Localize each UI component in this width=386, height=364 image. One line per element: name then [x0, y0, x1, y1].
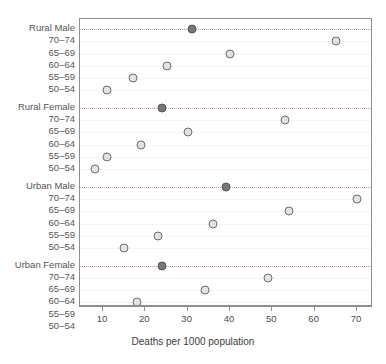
age-label-50-54: 50–54: [0, 242, 75, 252]
age-label-50-54: 50–54: [0, 321, 75, 331]
x-axis-line: [79, 306, 372, 307]
age-label-55-59: 55–59: [0, 151, 75, 161]
row-guide-line: [80, 211, 371, 212]
age-label-70-74: 70–74: [0, 114, 75, 124]
group-total-marker: [158, 103, 167, 112]
group-separator-line: [80, 266, 371, 267]
data-point: [137, 140, 146, 149]
x-tick-label: 10: [97, 313, 108, 324]
x-tick: [187, 306, 188, 311]
x-tick-label: 20: [139, 313, 150, 324]
age-label-65-69: 65–69: [0, 284, 75, 294]
age-label-65-69: 65–69: [0, 205, 75, 215]
data-point: [331, 37, 340, 46]
x-tick: [314, 306, 315, 311]
x-tick: [356, 306, 357, 311]
row-guide-line: [80, 41, 371, 42]
data-point: [353, 195, 362, 204]
age-label-70-74: 70–74: [0, 272, 75, 282]
age-label-60-64: 60–64: [0, 218, 75, 228]
x-tick-label: 30: [181, 313, 192, 324]
row-guide-line: [80, 78, 371, 79]
row-guide-line: [80, 66, 371, 67]
data-point: [162, 61, 171, 70]
data-point: [90, 165, 99, 174]
group-separator-line: [80, 108, 371, 109]
x-tick: [271, 306, 272, 311]
row-guide-line: [80, 132, 371, 133]
plot-area: [79, 18, 372, 306]
data-point: [103, 152, 112, 161]
age-label-65-69: 65–69: [0, 48, 75, 58]
row-guide-line: [80, 145, 371, 146]
data-point: [200, 286, 209, 295]
row-guide-line: [80, 157, 371, 158]
row-guide-line: [80, 236, 371, 237]
data-point: [103, 86, 112, 95]
age-label-55-59: 55–59: [0, 72, 75, 82]
age-label-70-74: 70–74: [0, 35, 75, 45]
x-tick-label: 50: [266, 313, 277, 324]
row-guide-line: [80, 224, 371, 225]
group-separator-line: [80, 29, 371, 30]
x-axis-title: Deaths per 1000 population: [0, 336, 386, 347]
data-point: [281, 116, 290, 125]
x-tick: [144, 306, 145, 311]
group-total-marker: [158, 261, 167, 270]
group-label-rural-female: Rural Female: [0, 102, 75, 112]
x-tick: [102, 306, 103, 311]
x-tick-label: 40: [224, 313, 235, 324]
age-label-55-59: 55–59: [0, 230, 75, 240]
data-point: [128, 74, 137, 83]
row-guide-line: [80, 120, 371, 121]
age-label-70-74: 70–74: [0, 193, 75, 203]
dot-plot-figure: Rural Male70–7465–6960–6455–5950–54Rural…: [0, 0, 386, 364]
age-label-50-54: 50–54: [0, 163, 75, 173]
age-label-65-69: 65–69: [0, 126, 75, 136]
group-total-marker: [187, 25, 196, 34]
age-label-55-59: 55–59: [0, 309, 75, 319]
age-label-50-54: 50–54: [0, 84, 75, 94]
group-total-marker: [221, 182, 230, 191]
group-label-rural-male: Rural Male: [0, 23, 75, 33]
age-label-60-64: 60–64: [0, 139, 75, 149]
data-point: [264, 273, 273, 282]
data-point: [285, 207, 294, 216]
group-label-urban-female: Urban Female: [0, 260, 75, 270]
age-label-60-64: 60–64: [0, 60, 75, 70]
data-point: [209, 219, 218, 228]
data-point: [226, 49, 235, 58]
data-point: [132, 298, 141, 306]
row-guide-line: [80, 169, 371, 170]
x-tick: [229, 306, 230, 311]
row-guide-line: [80, 199, 371, 200]
x-tick-label: 70: [351, 313, 362, 324]
row-guide-line: [80, 90, 371, 91]
data-point: [120, 244, 129, 253]
group-label-urban-male: Urban Male: [0, 181, 75, 191]
row-guide-line: [80, 290, 371, 291]
data-point: [183, 128, 192, 137]
row-guide-line: [80, 278, 371, 279]
data-point: [154, 231, 163, 240]
row-guide-line: [80, 302, 371, 303]
x-tick-label: 60: [308, 313, 319, 324]
age-label-60-64: 60–64: [0, 296, 75, 306]
